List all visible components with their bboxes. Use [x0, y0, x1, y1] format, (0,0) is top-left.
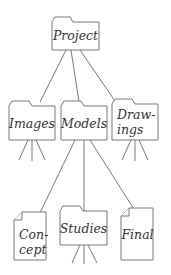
- edge-project-drawings: [80, 50, 115, 101]
- node-label: Studies: [60, 221, 107, 236]
- edges-models: [38, 140, 139, 220]
- drawings-stubs: [122, 140, 148, 161]
- dog-ear: [121, 208, 129, 216]
- node-project[interactable]: Project: [52, 17, 99, 50]
- edge-project-models: [71, 50, 79, 102]
- node-label: Models: [60, 116, 107, 131]
- edge-project-images: [40, 50, 66, 102]
- node-label: Project: [52, 28, 99, 43]
- folder-tree-diagram: Project Images Models Draw- ings Con- ce…: [0, 0, 171, 275]
- edge-models-concept: [38, 140, 75, 217]
- node-final[interactable]: Final: [120, 208, 153, 260]
- edges-project: [40, 50, 115, 102]
- node-label: Images: [8, 116, 55, 131]
- edge-models-final: [90, 140, 139, 217]
- node-images[interactable]: Images: [8, 101, 55, 140]
- node-label-line2: ings: [117, 122, 143, 137]
- node-label-line2: cept: [19, 242, 47, 257]
- node-studies[interactable]: Studies: [60, 206, 107, 245]
- node-label-line1: Con-: [19, 227, 48, 242]
- node-label: Final: [120, 227, 153, 242]
- node-concept[interactable]: Con- cept: [14, 212, 48, 260]
- node-models[interactable]: Models: [60, 101, 107, 140]
- node-drawings[interactable]: Draw- ings: [112, 99, 158, 140]
- studies-stubs: [72, 245, 97, 264]
- images-stubs: [19, 140, 45, 161]
- node-label-line1: Draw-: [116, 107, 155, 122]
